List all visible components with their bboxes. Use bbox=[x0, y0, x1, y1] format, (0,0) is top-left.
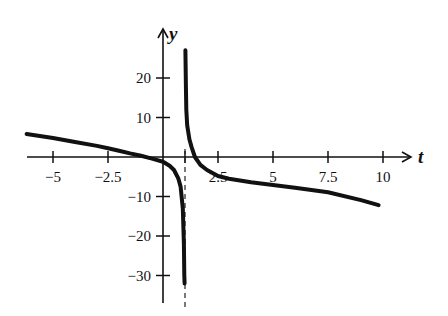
curves bbox=[27, 50, 379, 283]
y-tick-label: −10 bbox=[128, 189, 151, 205]
x-tick-label: 10 bbox=[376, 169, 391, 185]
chart: −5−2.52.557.5102010−10−20−30 t y bbox=[0, 0, 448, 316]
x-axis-label: t bbox=[418, 146, 424, 167]
x-tick-label: 7.5 bbox=[319, 169, 338, 185]
x-tick-label: 5 bbox=[269, 169, 277, 185]
y-tick-label: −20 bbox=[128, 228, 151, 244]
x-tick-label: −5 bbox=[45, 169, 61, 185]
y-tick-label: 20 bbox=[136, 70, 151, 86]
x-tick-label: −2.5 bbox=[94, 169, 121, 185]
axes bbox=[27, 29, 411, 303]
y-axis-label: y bbox=[167, 23, 178, 44]
y-tick-label: −30 bbox=[128, 268, 151, 284]
y-tick-label: 10 bbox=[136, 110, 151, 126]
